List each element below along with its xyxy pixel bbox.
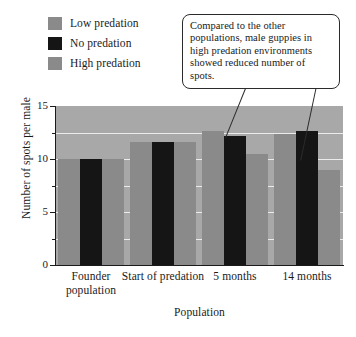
y-tick-0 — [50, 265, 55, 266]
y-tick-12-5 — [52, 133, 55, 134]
bar-low-predation — [58, 159, 80, 265]
bar-high-predation — [102, 159, 124, 265]
bar-no-predation — [224, 136, 246, 265]
bar-group-founder-population — [55, 106, 127, 265]
x-axis-title: Population — [55, 306, 344, 318]
y-tick-15 — [50, 106, 55, 107]
bar-low-predation — [202, 131, 224, 265]
bar-low-predation — [274, 134, 296, 265]
annotation-callout: Compared to the other populations, male … — [182, 14, 340, 89]
y-axis-title: Number of spots per male — [20, 83, 32, 233]
y-tick-10 — [50, 159, 55, 160]
bar-group-5-months — [199, 106, 271, 265]
bar-high-predation — [318, 170, 340, 265]
bar-high-predation — [246, 154, 268, 265]
bar-low-predation — [130, 142, 152, 265]
bar-no-predation — [152, 142, 174, 265]
y-tick-7-5 — [52, 186, 55, 187]
y-tick-5 — [50, 212, 55, 213]
y-tick-2-5 — [52, 239, 55, 240]
y-tick-label-0: 0 — [22, 259, 48, 270]
y-axis-line — [55, 106, 56, 266]
bar-no-predation — [80, 159, 102, 265]
x-tick-label-14-months: 14 months — [264, 270, 350, 284]
bar-no-predation — [296, 131, 318, 265]
annotation-callout-text: Compared to the other populations, male … — [190, 20, 312, 81]
bar-group-start-of-predation — [127, 106, 199, 265]
plot-area — [55, 106, 343, 265]
bar-high-predation — [174, 142, 196, 265]
x-axis-line — [55, 265, 344, 266]
